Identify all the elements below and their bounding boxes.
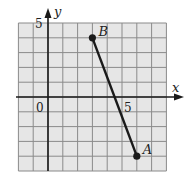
point-label-A: A: [142, 142, 152, 157]
x-tick-label-5: 5: [124, 101, 132, 115]
y-axis-label: y: [53, 4, 62, 19]
point-A: [133, 153, 140, 160]
y-axis-arrow-icon: [45, 8, 52, 18]
coordinate-plane: AB x y 0 5 5: [0, 0, 190, 187]
origin-label: 0: [36, 101, 44, 115]
point-label-B: B: [97, 24, 108, 39]
x-axis-label: x: [172, 80, 180, 95]
point-B: [89, 34, 96, 41]
y-tick-label-5: 5: [35, 17, 43, 31]
